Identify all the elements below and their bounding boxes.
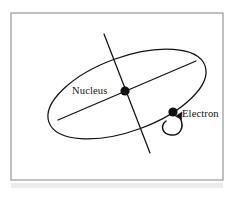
atom-diagram-figure: Nucleus Electron	[0, 0, 252, 204]
nucleus-dot	[120, 86, 129, 95]
nucleus-label: Nucleus	[72, 85, 107, 96]
scan-smudge-band	[11, 183, 223, 188]
atom-diagram-canvas: Nucleus Electron	[0, 0, 252, 204]
page-background	[0, 0, 252, 204]
electron-dot	[168, 107, 177, 116]
electron-label: Electron	[182, 108, 219, 119]
